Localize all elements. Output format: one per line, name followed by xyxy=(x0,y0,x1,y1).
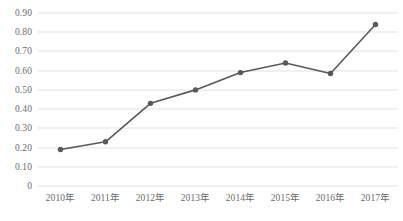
data-point-marker: 2014年: 0.59 xyxy=(238,70,243,75)
x-axis-tick-label: 2014年 xyxy=(226,190,256,204)
plot-area: 2010年: 0.192011年: 0.232012年: 0.432013年: … xyxy=(38,13,398,186)
y-axis-tick-label: 0.50 xyxy=(15,85,32,95)
data-point-marker: 2017年: 0.84 xyxy=(373,22,378,27)
line-chart: 0.900.800.700.600.500.400.300.200.100 20… xyxy=(0,0,403,221)
x-axis-tick-label: 2012年 xyxy=(136,190,166,204)
series-layer: 2010年: 0.192011年: 0.232012年: 0.432013年: … xyxy=(38,13,398,186)
y-axis-tick-label: 0.70 xyxy=(15,46,32,56)
y-axis-tick-label: 0 xyxy=(27,181,32,191)
data-point-marker: 2011年: 0.23 xyxy=(103,139,108,144)
data-point-marker: 2013年: 0.5 xyxy=(193,87,198,92)
data-point-marker: 2012年: 0.43 xyxy=(148,101,153,106)
x-axis-tick-label: 2016年 xyxy=(316,190,346,204)
data-point-marker: 2016年: 0.585 xyxy=(328,71,333,76)
data-point-marker: 2010年: 0.19 xyxy=(58,147,63,152)
y-axis-tick-label: 0.60 xyxy=(15,66,32,76)
data-point-marker: 2015年: 0.64 xyxy=(283,60,288,65)
x-axis-tick-label: 2015年 xyxy=(271,190,301,204)
x-axis-tick-label: 2013年 xyxy=(181,190,211,204)
y-axis-tick-label: 0.80 xyxy=(15,27,32,37)
series-line xyxy=(61,25,376,150)
y-axis-tick-label: 0.90 xyxy=(15,8,32,18)
x-axis-tick-label: 2017年 xyxy=(361,190,391,204)
y-axis-tick-label: 0.40 xyxy=(15,104,32,114)
x-axis-tick-labels: 2010年2011年2012年2013年2014年2015年2016年2017年 xyxy=(38,190,398,214)
y-axis-tick-label: 0.10 xyxy=(15,162,32,172)
x-axis-tick-label: 2010年 xyxy=(46,190,76,204)
y-axis-tick-labels: 0.900.800.700.600.500.400.300.200.100 xyxy=(0,0,36,221)
y-axis-tick-label: 0.20 xyxy=(15,143,32,153)
y-axis-tick-label: 0.30 xyxy=(15,123,32,133)
x-axis-tick-label: 2011年 xyxy=(91,190,120,204)
